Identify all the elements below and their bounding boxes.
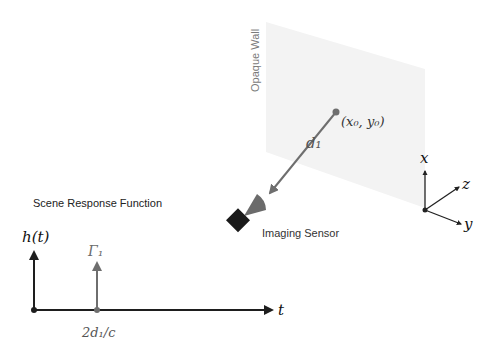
axis-x-label: x [420, 149, 429, 167]
sensor-label: Imaging Sensor [262, 227, 339, 239]
point-label: (x₀, y₀) [341, 114, 385, 129]
spike-position-label: 2d₁/c [81, 325, 116, 340]
axis-y-label: y [463, 215, 473, 233]
axis-z-label: z [461, 175, 470, 193]
diagram-svg: Opaque Wall (x₀, y₀) d₁ Imaging Sensor x… [0, 0, 494, 359]
spike-base-dot [94, 307, 100, 313]
wall-point [333, 109, 340, 116]
origin-dot [31, 307, 37, 313]
sensor-body [226, 208, 250, 232]
response-title: Scene Response Function [33, 197, 162, 209]
t-axis-label: t [278, 301, 285, 319]
diagram-canvas: Opaque Wall (x₀, y₀) d₁ Imaging Sensor x… [0, 0, 494, 359]
coordinate-axes [423, 171, 462, 224]
wall-label: Opaque Wall [249, 29, 261, 92]
spike-label: Γ₁ [87, 243, 103, 259]
h-axis-label: h(t) [22, 228, 50, 246]
distance-label: d₁ [306, 134, 322, 152]
sensor-cone [244, 194, 266, 216]
